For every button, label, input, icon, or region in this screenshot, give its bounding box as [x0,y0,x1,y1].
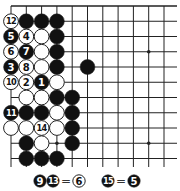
white-stone-icon [50,75,65,90]
black-stone [34,14,49,29]
move-number-label: 5 [8,31,15,42]
black-stone [50,29,65,44]
black-stone: 5 [128,175,140,187]
black-stone-icon [19,14,34,29]
black-stone [19,105,34,120]
white-stone: 6 [4,44,19,59]
white-stone [50,75,65,90]
black-stone [19,14,34,29]
black-stone-icon [19,151,34,166]
star-point-icon [55,141,59,145]
go-board-grid: 1254673810211114 [0,0,180,172]
white-stone: 8 [19,60,34,75]
black-stone-icon [50,60,65,75]
white-stone [50,121,65,136]
black-stone [19,136,34,151]
move-number-label: 5 [131,176,138,187]
white-stone-icon [34,44,49,59]
move-number-label: 7 [23,46,30,57]
star-point-icon [147,50,151,54]
move-number-label: 11 [6,108,17,118]
move-number-label: 15 [103,176,114,186]
equals-sign: = [61,174,71,188]
black-stone [50,60,65,75]
move-number-label: 8 [23,62,30,73]
black-stone: 3 [4,60,19,75]
white-stone [34,90,49,105]
white-stone [50,105,65,120]
black-stone [65,136,80,151]
move-number-label: 13 [48,176,59,186]
black-stone [50,151,65,166]
white-stone: 14 [34,121,49,136]
white-stone: 12 [4,14,19,29]
white-stone [34,136,49,151]
black-stone [34,151,49,166]
move-number-label: 10 [6,77,17,87]
black-stone [65,105,80,120]
white-stone-icon [34,136,49,151]
black-stone-icon [65,121,80,136]
move-number-label: 6 [76,176,83,187]
black-stone: 5 [4,29,19,44]
move-number-label: 4 [23,31,30,42]
black-stone-icon [65,136,80,151]
white-stone-icon [34,60,49,75]
white-stone [19,90,34,105]
white-stone-icon [50,121,65,136]
black-stone: 13 [47,175,59,187]
white-stone-icon [34,90,49,105]
black-stone: 1 [34,75,49,90]
equals-sign: = [116,174,126,188]
black-stone [50,14,65,29]
star-point-icon [147,141,151,145]
black-stone-icon [65,105,80,120]
white-stone-icon [19,121,34,136]
black-stone [50,90,65,105]
black-stone-icon [50,44,65,59]
move-number-label: 6 [8,46,15,57]
white-stone-icon [34,29,49,44]
black-stone-icon [34,14,49,29]
black-stone-icon [80,60,95,75]
black-stone [34,105,49,120]
black-stone-icon [50,29,65,44]
black-stone-icon [19,105,34,120]
move-number-label: 3 [8,62,15,73]
black-stone-icon [34,105,49,120]
white-stone [34,44,49,59]
black-stone-icon [50,90,65,105]
black-stone-icon [50,14,65,29]
black-stone-icon [19,136,34,151]
white-stone-icon [50,105,65,120]
black-stone [19,151,34,166]
black-stone: 9 [34,175,46,187]
move-annotation-caption: 9 13 = 6 15 = 5 913=615=5 [0,172,180,191]
black-stone: 15 [102,175,114,187]
move-number-label: 9 [37,176,44,187]
black-stone-icon [34,151,49,166]
move-number-label: 1 [38,77,45,88]
white-stone: 4 [19,29,34,44]
white-stone: 10 [4,75,19,90]
black-stone [65,121,80,136]
move-number-label: 14 [36,123,47,133]
black-stone [50,44,65,59]
black-stone-icon [50,151,65,166]
black-stone-icon [65,90,80,105]
black-stone [65,90,80,105]
white-stone: 6 [73,175,85,187]
white-stone: 2 [19,75,34,90]
black-stone: 11 [4,105,19,120]
white-stone [4,121,19,136]
go-board: 1254673810211114 [0,0,180,172]
white-stone [34,60,49,75]
white-stone-icon [19,90,34,105]
black-stone [80,60,95,75]
move-number-label: 12 [6,16,16,26]
move-number-label: 2 [23,77,30,88]
white-stone-icon [4,121,19,136]
black-stone: 7 [19,44,34,59]
white-stone [19,121,34,136]
white-stone [34,29,49,44]
